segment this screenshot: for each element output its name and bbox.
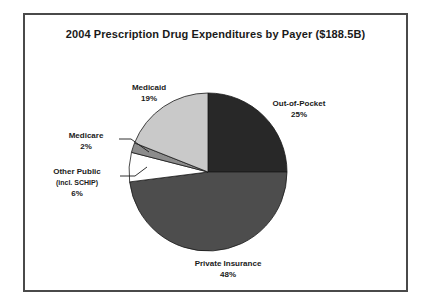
pie-label-other-public: Other Public (incl. SCHIP) 6% bbox=[36, 166, 118, 199]
pie-chart-graphic bbox=[23, 13, 408, 292]
pie-label-medicare-name: Medicare bbox=[55, 130, 117, 141]
pie-label-other-public-name: Other Public bbox=[36, 166, 118, 177]
pie-label-medicare-percent: 2% bbox=[55, 141, 117, 152]
pie-label-medicare: Medicare 2% bbox=[55, 130, 117, 152]
pie-slice-private-insurance[interactable] bbox=[130, 172, 287, 251]
pie-label-private-insurance: Private Insurance 48% bbox=[162, 258, 294, 280]
pie-label-out-of-pocket-percent: 25% bbox=[258, 109, 340, 120]
pie-label-private-insurance-name: Private Insurance bbox=[162, 258, 294, 269]
chart-figure: 2004 Prescription Drug Expenditures by P… bbox=[0, 0, 431, 307]
pie-label-medicaid: Medicaid 19% bbox=[118, 82, 180, 104]
pie-label-private-insurance-percent: 48% bbox=[162, 269, 294, 280]
pie-label-medicaid-name: Medicaid bbox=[118, 82, 180, 93]
pie-label-out-of-pocket-name: Out-of-Pocket bbox=[258, 98, 340, 109]
pie-label-other-public-percent: 6% bbox=[36, 188, 118, 199]
pie-label-medicaid-percent: 19% bbox=[118, 93, 180, 104]
pie-label-out-of-pocket: Out-of-Pocket 25% bbox=[258, 98, 340, 120]
pie-label-other-public-sub: (incl. SCHIP) bbox=[36, 177, 118, 188]
